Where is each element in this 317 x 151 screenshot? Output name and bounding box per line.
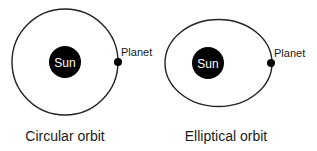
circular-orbit-caption: Circular orbit — [25, 128, 104, 144]
elliptical-orbit-caption: Elliptical orbit — [185, 128, 268, 144]
planet-label: Planet — [274, 47, 305, 59]
planet-icon — [114, 58, 122, 66]
orbit-diagram: Sun Planet Circular orbit Sun Planet Ell… — [0, 0, 317, 151]
elliptical-orbit-diagram: Sun Planet Elliptical orbit — [165, 20, 305, 145]
planet-icon — [267, 59, 275, 67]
circular-orbit-diagram: Sun Planet Circular orbit — [12, 9, 152, 144]
sun-label: Sun — [197, 57, 218, 71]
planet-label: Planet — [121, 46, 152, 58]
sun-label: Sun — [54, 56, 75, 70]
